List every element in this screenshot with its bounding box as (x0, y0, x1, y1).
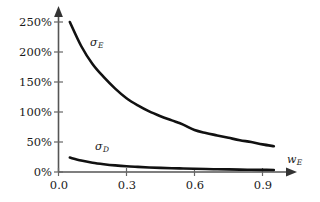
y-tick-label-150: 150% (8, 77, 52, 89)
sigma-D-curve-label: σD (95, 141, 109, 152)
x-tick-label-03: 0.3 (111, 180, 143, 192)
x-axis-title: wE (287, 154, 302, 165)
x-axis-title-subscript: E (297, 158, 302, 167)
y-tick-label-0: 0% (8, 167, 52, 179)
x-tick-label-0: 0.0 (43, 180, 75, 192)
series-curve-sigma-D (70, 158, 274, 170)
sigma-D-subscript: D (103, 145, 109, 154)
x-axis-title-symbol: w (287, 153, 296, 166)
y-axis (54, 6, 63, 172)
y-tick-label-250: 250% (8, 17, 52, 29)
chart-figure: 0% 50% 100% 150% 200% 250% 0.0 0.3 0.6 0… (0, 0, 320, 202)
y-tick-label-50: 50% (8, 137, 52, 149)
sigma-D-symbol: σ (95, 140, 103, 153)
sigma-E-symbol: σ (90, 36, 98, 49)
y-tick-label-100: 100% (8, 107, 52, 119)
x-tick-label-06: 0.6 (179, 180, 211, 192)
y-tick-label-200: 200% (8, 47, 52, 59)
x-tick-label-09: 0.9 (247, 180, 279, 192)
sigma-E-subscript: E (98, 41, 103, 50)
sigma-E-curve-label: σE (90, 37, 103, 48)
